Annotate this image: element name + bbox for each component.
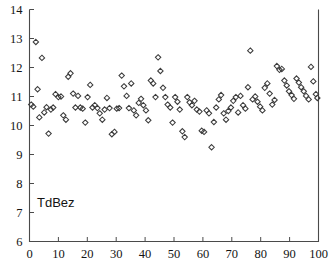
x-tick-label: 0 [26,247,32,261]
x-tick-label: 60 [197,247,210,261]
x-tick-label: 40 [139,247,152,261]
x-tick-label: 20 [81,247,94,261]
y-tick-label: 11 [10,90,22,104]
x-tick-label: 80 [254,247,267,261]
x-tick-label: 70 [226,247,239,261]
y-tick-label: 6 [16,235,22,249]
x-tick-label: 50 [168,247,181,261]
y-tick-label: 8 [16,177,22,191]
x-tick-label: 30 [110,247,123,261]
series-annotation-label: TdBez [37,195,75,210]
y-tick-label: 13 [10,32,23,46]
x-tick-label: 10 [52,247,65,261]
y-tick-label: 10 [10,119,23,133]
y-tick-label: 7 [16,206,22,220]
y-tick-label: 14 [10,3,23,17]
y-tick-label: 9 [16,148,22,162]
y-tick-label: 12 [10,61,23,75]
plot-svg: 0102030405060708090100 67891011121314 Td… [0,0,332,264]
x-tick-label: 100 [309,247,328,261]
x-tick-label: 90 [283,247,296,261]
scatter-plot-figure: 0102030405060708090100 67891011121314 Td… [0,0,332,264]
